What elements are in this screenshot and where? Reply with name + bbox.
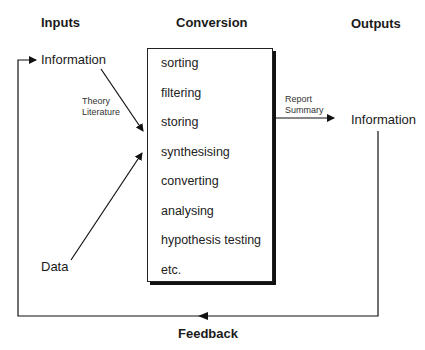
- conversion-step: sorting: [161, 56, 199, 70]
- output-information-label: Information: [351, 112, 416, 127]
- outputs-heading: Outputs: [351, 16, 401, 31]
- theory-literature-label: Theory Literature: [82, 96, 120, 118]
- feedback-arrowhead-icon: [198, 312, 208, 320]
- conversion-step: etc.: [161, 263, 181, 277]
- conversion-heading: Conversion: [176, 15, 248, 30]
- conversion-step: filtering: [161, 86, 201, 100]
- inputs-heading: Inputs: [41, 15, 80, 30]
- conversion-step: analysing: [161, 204, 214, 218]
- conversion-step: synthesising: [161, 145, 230, 159]
- input-information-label: Information: [41, 52, 106, 67]
- input-data-label: Data: [41, 259, 68, 274]
- conversion-step: converting: [161, 174, 219, 188]
- conversion-step: hypothesis testing: [161, 233, 261, 247]
- conversion-box: sorting filtering storing synthesising c…: [147, 48, 273, 282]
- report-summary-label: Report Summary: [285, 94, 324, 116]
- data-arrow: [71, 153, 142, 260]
- feedback-label: Feedback: [178, 326, 238, 341]
- conversion-step: storing: [161, 115, 199, 129]
